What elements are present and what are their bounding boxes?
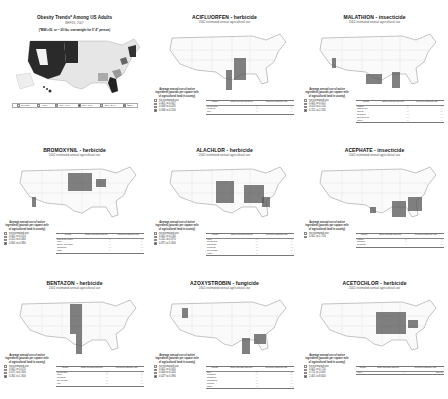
- swatch: [154, 232, 157, 234]
- table-cell: oats: [56, 250, 80, 253]
- pesticide-map-panel: BROMOXYNIL - herbicide 2002 estimated an…: [0, 133, 149, 266]
- legend-item: 15%–19%: [78, 104, 93, 107]
- swatch: [304, 106, 307, 108]
- table-row: oats——: [56, 250, 144, 253]
- swatch: [78, 104, 81, 106]
- legend-label: No Data: [21, 104, 30, 107]
- table-cell: other: [206, 386, 223, 389]
- legend-label: 0.871 to 5.300: [159, 242, 176, 245]
- swatch: [154, 103, 157, 105]
- map-grid: Obesity Trends* Among US Adults BRFSS, 2…: [0, 0, 448, 399]
- legend-row: 0.301 to 1.300: [4, 375, 50, 378]
- swatch: [304, 369, 307, 371]
- us-county-map: [312, 28, 442, 90]
- pesticide-map-panel: ACETOCHLOR - herbicide 2002 estimated an…: [300, 266, 448, 399]
- table-cell: —: [80, 250, 112, 253]
- legend-row: 0.061 to 0.380: [4, 242, 50, 245]
- table-cell: —: [259, 253, 294, 256]
- legend: Average annual use of active ingredient …: [304, 88, 350, 112]
- legend: Average annual use of active ingredient …: [154, 354, 200, 378]
- table-cell: rice: [56, 383, 74, 386]
- legend: Average annual use of active ingredient …: [304, 354, 350, 378]
- swatch: [154, 106, 157, 108]
- table-cell: —: [408, 244, 444, 247]
- legend-row: 0.151 to 2.200: [304, 109, 350, 112]
- legend: Average annual use of active ingredient …: [4, 221, 50, 245]
- table-cell: —: [109, 383, 144, 386]
- swatch: [4, 369, 7, 371]
- swatch: [304, 365, 307, 367]
- legend-heading: Average annual use of active ingredient …: [304, 88, 350, 98]
- table-cell: 100.00: [407, 371, 444, 374]
- panel-subtitle: 2002 estimated annual agricultural use: [49, 153, 101, 157]
- swatch: [4, 239, 7, 241]
- us-county-map: [12, 161, 142, 223]
- panel-subtitle: 2002 estimated annual agricultural use: [349, 20, 401, 24]
- legend-heading: Average annual use of active ingredient …: [4, 221, 50, 231]
- us-county-map: [162, 161, 292, 223]
- legend-label: ≥25%: [127, 104, 133, 107]
- swatch: [304, 236, 307, 238]
- legend-item: ≥25%: [123, 104, 133, 107]
- legend-row: 0.027 to 0.390: [154, 375, 200, 378]
- panel-subtitle: 2002 estimated annual agricultural use: [49, 286, 101, 290]
- crops-table: CropsTotal pounds appliedPercent nationa…: [356, 233, 444, 248]
- table-row: other——: [206, 386, 294, 389]
- table-row: rice——: [206, 111, 294, 114]
- swatch: [304, 372, 307, 374]
- us-county-map: [162, 28, 292, 90]
- swatch: [304, 103, 307, 105]
- table-cell: rice: [206, 111, 224, 114]
- legend: Average annual use of active ingredient …: [4, 354, 50, 378]
- swatch: [17, 104, 20, 106]
- legend-row: 0.001 to 1.700: [304, 235, 350, 238]
- swatch: [154, 99, 157, 101]
- table-cell: —: [74, 383, 109, 386]
- table-row: peanuts——: [356, 244, 444, 247]
- crops-table: CropsTotal pounds appliedPercent nationa…: [356, 366, 444, 375]
- legend-heading: Average annual use of active ingredient …: [154, 354, 200, 364]
- legend-label: 0.151 to 2.200: [309, 109, 326, 112]
- table-cell: —: [224, 253, 259, 256]
- us-county-map: [162, 294, 292, 356]
- us-county-map: [312, 294, 442, 356]
- legend-row: 2.401 to 8.600: [304, 375, 350, 378]
- crops-table: CropsTotal pounds appliedPercent nationa…: [56, 233, 144, 254]
- swatch: [4, 372, 7, 374]
- swatch: [4, 232, 7, 234]
- legend-label: 2.401 to 8.600: [309, 375, 326, 378]
- table-cell: —: [223, 386, 258, 389]
- legend: Average annual use of active ingredient …: [154, 221, 200, 245]
- legend-label: 15%–19%: [82, 104, 93, 107]
- legend-item: No Data: [17, 104, 30, 107]
- us-county-map: [12, 294, 142, 356]
- swatch: [304, 109, 307, 111]
- table-cell: peanuts: [356, 244, 372, 247]
- legend-item: <10%: [37, 104, 47, 107]
- table-cell: —: [410, 120, 444, 123]
- crops-table: CropsTotal pounds appliedPercent nationa…: [56, 366, 144, 387]
- legend-heading: Average annual use of active ingredient …: [304, 221, 350, 231]
- swatch: [304, 232, 307, 234]
- swatch: [4, 365, 7, 367]
- table-row: corn—100.00: [356, 371, 444, 374]
- legend-row: 0.871 to 5.300: [154, 242, 200, 245]
- legend-heading: Average annual use of active ingredient …: [304, 354, 350, 364]
- swatch: [4, 375, 7, 377]
- swatch: [4, 236, 7, 238]
- swatch: [304, 99, 307, 101]
- table-cell: —: [112, 250, 144, 253]
- swatch: [154, 239, 157, 241]
- legend: Average annual use of active ingredient …: [154, 88, 200, 112]
- legend-item: 10%–14%: [55, 104, 70, 107]
- table-cell: —: [369, 371, 407, 374]
- table-cell: —: [259, 111, 294, 114]
- panel-subtitle: 2002 estimated annual agricultural use: [199, 20, 251, 24]
- swatch: [154, 109, 157, 111]
- legend-label: <10%: [41, 104, 47, 107]
- pesticide-map-panel: MALATHION - insecticide 2002 estimated a…: [300, 0, 448, 133]
- table-cell: —: [372, 244, 408, 247]
- swatch: [154, 369, 157, 371]
- swatch: [4, 242, 7, 244]
- panel-subtitle: 2002 estimated annual agricultural use: [199, 286, 251, 290]
